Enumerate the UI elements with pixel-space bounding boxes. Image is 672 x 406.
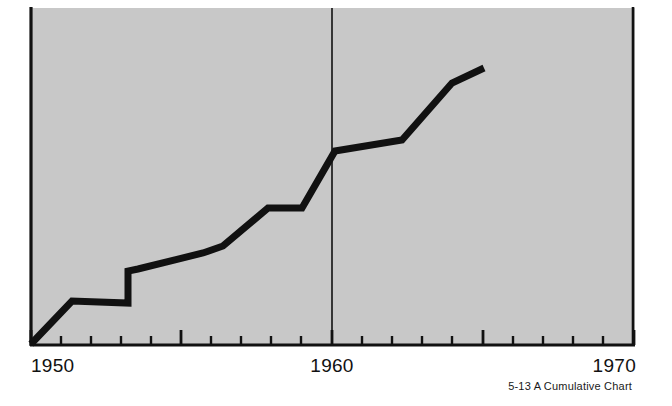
x-tick-label-1960: 1960 [310,355,353,376]
plot-area-background [31,8,635,345]
x-tick-label-1970: 1970 [593,355,636,376]
chart-canvas: 1950 1960 1970 5-13 A Cumulative Chart [0,0,672,406]
figure-cumulative-chart: 1950 1960 1970 5-13 A Cumulative Chart [0,0,672,406]
figure-caption: 5-13 A Cumulative Chart [508,380,632,392]
x-tick-label-1950: 1950 [31,355,74,376]
